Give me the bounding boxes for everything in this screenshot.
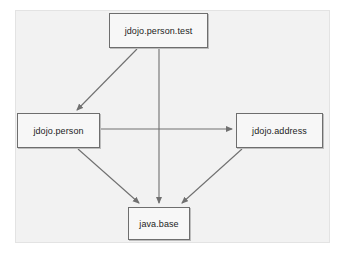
module-node-jdojo-person[interactable]: jdojo.person — [17, 113, 100, 148]
module-node-label: java.base — [139, 219, 178, 229]
module-node-jdojo-address[interactable]: jdojo.address — [236, 113, 323, 148]
diagram-canvas: jdojo.person.test jdojo.person jdojo.add… — [0, 0, 339, 253]
module-node-label: jdojo.person — [33, 126, 83, 136]
module-node-jdojo-person-test[interactable]: jdojo.person.test — [109, 13, 208, 48]
module-node-java-base[interactable]: java.base — [128, 207, 190, 240]
module-node-label: jdojo.address — [252, 126, 307, 136]
module-node-label: jdojo.person.test — [125, 26, 193, 36]
